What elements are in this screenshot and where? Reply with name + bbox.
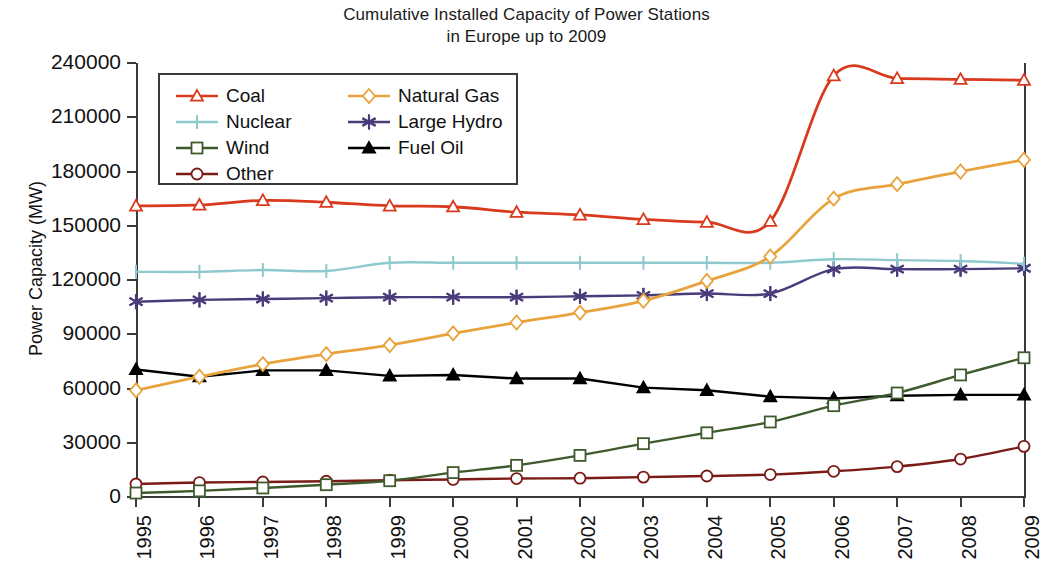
legend-column-right: Natural GasLarge HydroFuel Oil (346, 83, 503, 161)
legend-item-large-hydro[interactable]: Large Hydro (346, 109, 503, 135)
data-point-marker (638, 472, 649, 483)
data-point-marker (701, 274, 713, 288)
y-tick: 180000 (127, 171, 136, 173)
legend-column-left: CoalNuclearWindOther (174, 83, 291, 187)
data-point-marker (764, 249, 776, 263)
x-tick-label: 1999 (386, 515, 409, 560)
x-tick-label: 2008 (957, 515, 980, 560)
data-point-marker (447, 326, 459, 340)
data-point-marker (765, 416, 776, 427)
y-tick-label: 0 (109, 484, 121, 508)
x-tick-label: 2005 (767, 515, 790, 560)
legend-label: Coal (226, 86, 265, 106)
legend-label: Natural Gas (398, 86, 499, 106)
y-tick-label: 90000 (63, 321, 121, 345)
y-tick: 240000 (127, 62, 136, 64)
data-point-marker (130, 383, 142, 397)
x-tick-label: 2003 (640, 515, 663, 560)
data-point-marker (257, 482, 268, 493)
y-tick: 90000 (127, 333, 136, 335)
data-point-marker (363, 89, 375, 103)
legend-label: Wind (226, 138, 269, 158)
x-tick-label: 1995 (133, 515, 156, 560)
legend-swatch-natural-gas-icon (346, 86, 392, 106)
data-point-marker (575, 473, 586, 484)
data-point-marker (257, 357, 269, 371)
y-tick-label: 240000 (51, 50, 121, 74)
y-axis-label: Power Capacity (MW) (26, 129, 47, 409)
legend-item-natural-gas[interactable]: Natural Gas (346, 83, 503, 109)
data-point-marker (891, 177, 903, 191)
chart-root: Cumulative Installed Capacity of Power S… (0, 0, 1053, 572)
legend-item-nuclear[interactable]: Nuclear (174, 109, 291, 135)
y-tick: 30000 (127, 442, 136, 444)
y-tick-label: 60000 (63, 375, 121, 399)
legend-swatch-coal-icon (174, 86, 220, 106)
chart-title: Cumulative Installed Capacity of Power S… (0, 4, 1053, 48)
y-tick-label: 180000 (51, 158, 121, 182)
y-tick: 120000 (127, 279, 136, 281)
y-tick-label: 30000 (63, 429, 121, 453)
legend-label: Other (226, 164, 274, 184)
data-point-marker (192, 169, 203, 180)
x-tick-label: 2000 (450, 515, 473, 560)
legend-item-wind[interactable]: Wind (174, 135, 291, 161)
series-natural-gas (130, 153, 1030, 398)
legend-swatch-other-icon (174, 164, 220, 184)
x-tick-label: 1996 (196, 515, 219, 560)
legend-swatch-fuel-oil-icon (346, 138, 392, 158)
data-point-marker (384, 338, 396, 352)
plot-area: 0300006000090000120000150000180000210000… (136, 63, 1024, 497)
legend-label: Large Hydro (398, 112, 503, 132)
legend-swatch-nuclear-icon (174, 112, 220, 132)
x-tick-label: 2006 (830, 515, 853, 560)
data-point-marker (574, 306, 586, 320)
x-tick-label: 2009 (1021, 515, 1044, 560)
legend-label: Fuel Oil (398, 138, 463, 158)
data-point-marker (511, 315, 523, 329)
data-point-marker (955, 165, 967, 179)
data-point-marker (511, 460, 522, 471)
data-point-marker (892, 461, 903, 472)
y-tick: 150000 (127, 225, 136, 227)
x-tick-label: 1997 (259, 515, 282, 560)
x-tick-label: 2002 (577, 515, 600, 560)
data-point-marker (892, 388, 903, 399)
x-tick-label: 2007 (894, 515, 917, 560)
data-point-marker (828, 400, 839, 411)
legend-swatch-wind-icon (174, 138, 220, 158)
data-point-marker (194, 485, 205, 496)
legend-item-coal[interactable]: Coal (174, 83, 291, 109)
data-point-marker (321, 479, 332, 490)
legend-swatch-large-hydro-icon (346, 112, 392, 132)
x-tick-label: 2004 (703, 515, 726, 560)
data-point-marker (192, 143, 203, 154)
data-point-marker (448, 467, 459, 478)
data-point-marker (765, 469, 776, 480)
chart-title-line-2: in Europe up to 2009 (0, 26, 1053, 48)
data-point-marker (955, 369, 966, 380)
data-point-marker (955, 454, 966, 465)
y-tick-label: 210000 (51, 104, 121, 128)
chart-title-line-1: Cumulative Installed Capacity of Power S… (0, 4, 1053, 26)
data-point-marker (575, 450, 586, 461)
data-point-marker (511, 473, 522, 484)
data-point-marker (701, 471, 712, 482)
data-point-marker (131, 488, 142, 499)
data-point-marker (1019, 352, 1030, 363)
legend-label: Nuclear (226, 112, 291, 132)
y-tick: 210000 (127, 116, 136, 118)
data-point-marker (701, 427, 712, 438)
legend-item-fuel-oil[interactable]: Fuel Oil (346, 135, 503, 161)
chart-legend: CoalNuclearWindOther Natural GasLarge Hy… (158, 73, 518, 185)
y-tick-label: 120000 (51, 267, 121, 291)
data-point-marker (828, 192, 840, 206)
data-point-marker (1019, 441, 1030, 452)
legend-item-other[interactable]: Other (174, 161, 291, 187)
data-point-marker (828, 466, 839, 477)
x-tick-label: 1998 (323, 515, 346, 560)
x-tick-label: 2001 (513, 515, 536, 560)
data-point-marker (638, 438, 649, 449)
data-point-marker (320, 347, 332, 361)
data-point-marker (1018, 153, 1030, 167)
